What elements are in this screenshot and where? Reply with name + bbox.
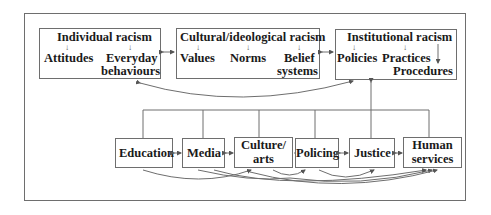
institutional-racism-title: Institutional racism xyxy=(347,31,452,44)
systems-label: systems xyxy=(277,65,318,78)
individual-racism-title: Individual racism xyxy=(57,31,152,44)
human-services-label-2: services xyxy=(405,153,460,166)
justice-label: Justice xyxy=(354,147,391,160)
cultural-racism-title: Cultural/ideological racism xyxy=(180,31,325,44)
policing-label: Policing xyxy=(296,147,339,160)
norms-label: Norms xyxy=(230,52,266,65)
attitudes-label: Attitudes xyxy=(44,52,93,65)
values-label: Values xyxy=(180,52,215,65)
culture-arts-label-2: arts xyxy=(238,153,289,166)
media-label: Media xyxy=(187,147,221,160)
procedures-label: Procedures xyxy=(393,65,453,78)
education-label: Education xyxy=(119,147,174,160)
human-services-label-1: Human xyxy=(405,139,460,152)
culture-arts-label-1: Culture/ xyxy=(238,139,289,152)
behaviours-label: behaviours xyxy=(101,65,160,78)
policies-label: Policies xyxy=(337,52,377,65)
